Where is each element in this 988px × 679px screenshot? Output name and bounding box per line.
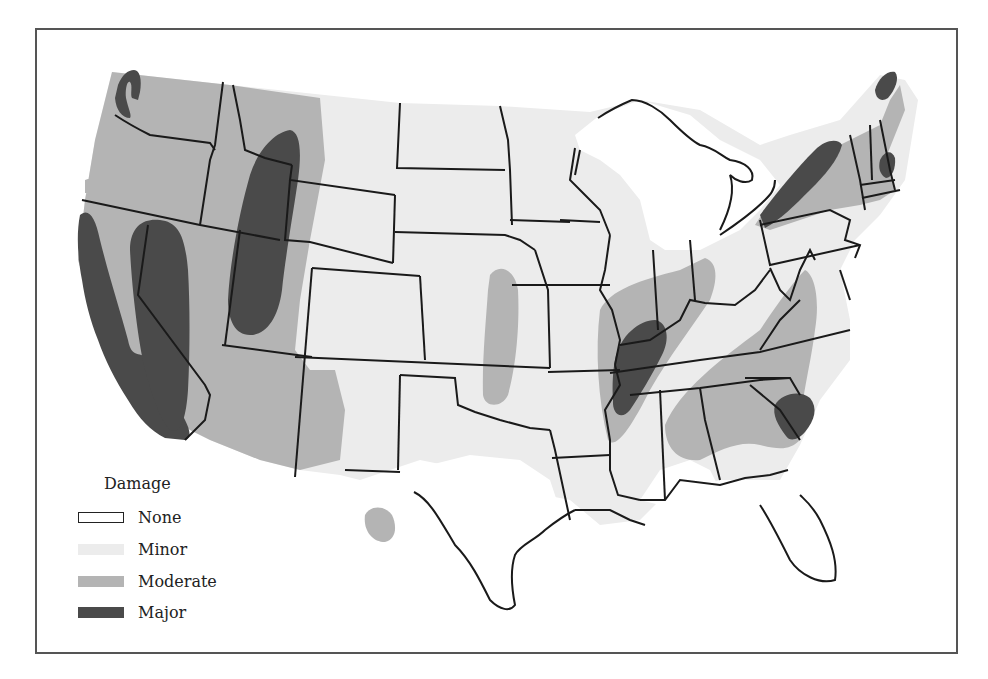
legend-label-none: None [138, 508, 181, 528]
legend-title: Damage [104, 474, 171, 493]
region-none-texas [414, 455, 560, 610]
legend-label-moderate: Moderate [138, 572, 217, 592]
legend-label-major: Major [138, 603, 186, 623]
swatch-minor [78, 544, 124, 555]
legend-label-minor: Minor [138, 540, 187, 560]
swatch-major [78, 607, 124, 618]
legend-item-major: Major [78, 603, 238, 623]
legend-item-moderate: Moderate [78, 572, 238, 592]
region-moderate-mexico-border [365, 508, 395, 543]
swatch-none [78, 512, 124, 523]
legend-item-none: None [78, 508, 238, 528]
legend-item-minor: Minor [78, 540, 238, 560]
swatch-moderate [78, 576, 124, 587]
